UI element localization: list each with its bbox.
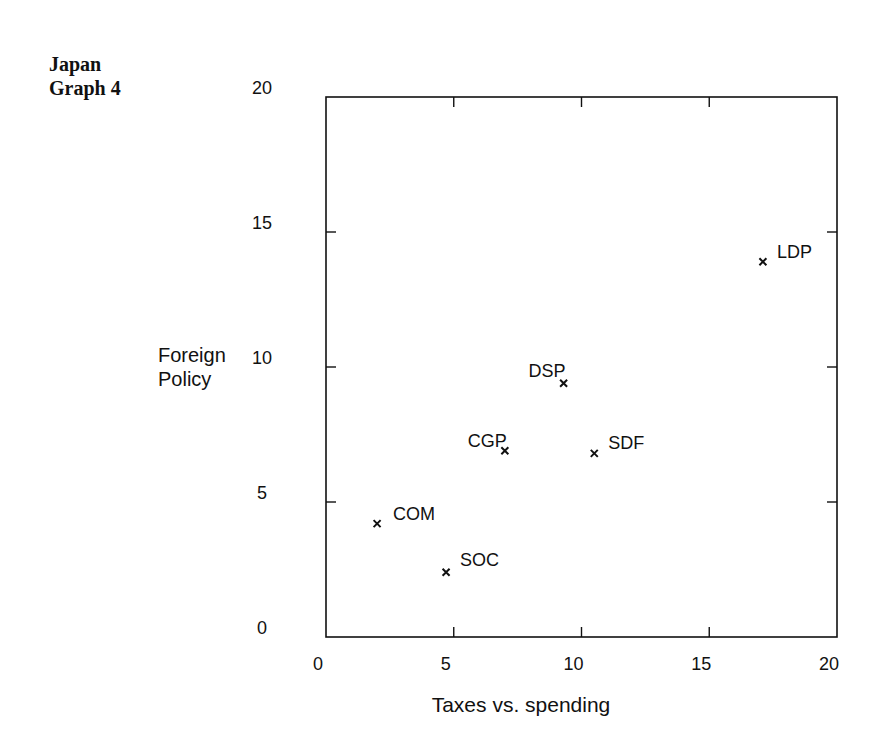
y-tick-label: 15: [252, 213, 272, 233]
point-label-com: COM: [393, 504, 435, 524]
point-label-dsp: DSP: [529, 361, 566, 381]
plot-frame: [326, 97, 837, 637]
x-tick-label: 0: [313, 654, 323, 674]
x-tick-label: 5: [441, 654, 451, 674]
x-marker-icon: [759, 258, 766, 265]
y-tick-label: 5: [257, 483, 267, 503]
point-label-ldp: LDP: [777, 242, 812, 262]
x-tick-label: 20: [819, 654, 839, 674]
y-tick-label: 20: [252, 78, 272, 98]
point-label-cgp: CGP: [468, 431, 507, 451]
scatter-plot: 0510152005101520COMSOCCGPDSPSDFLDP: [0, 0, 892, 755]
y-tick-label: 10: [252, 348, 272, 368]
x-marker-icon: [374, 520, 381, 527]
x-tick-label: 15: [691, 654, 711, 674]
x-tick-label: 10: [563, 654, 583, 674]
x-marker-icon: [591, 450, 598, 457]
x-marker-icon: [443, 569, 450, 576]
point-label-soc: SOC: [460, 550, 499, 570]
point-label-sdf: SDF: [608, 433, 644, 453]
y-tick-label: 0: [257, 618, 267, 638]
